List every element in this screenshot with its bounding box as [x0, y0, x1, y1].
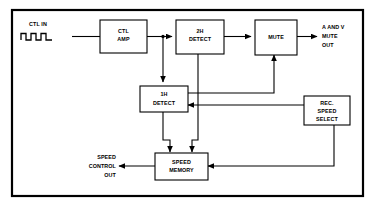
block-2h-detect-line-2: DETECT [189, 36, 212, 42]
block-rec-speed-select[interactable]: REC. SPEED SELECT [304, 96, 350, 125]
block-speed-memory[interactable]: SPEED MEMORY [155, 153, 208, 180]
block-2h-detect[interactable]: 2H DETECT [176, 20, 224, 54]
block-ctl-amp-line-2: AMP [117, 36, 130, 42]
block-1h-detect-line-1: 1H [160, 91, 167, 97]
block-speed-memory-line-2: MEMORY [169, 167, 194, 173]
block-rec-speed-line-3: SELECT [316, 116, 338, 122]
block-rec-speed-line-1: REC. [320, 100, 334, 106]
block-2h-detect-line-1: 2H [196, 28, 203, 34]
a-and-v-mute-out-label: A AND V MUTE OUT [322, 24, 345, 48]
block-1h-detect[interactable]: 1H DETECT [140, 86, 188, 112]
block-1h-detect-line-2: DETECT [153, 100, 176, 106]
block-mute[interactable]: MUTE [255, 20, 297, 55]
block-diagram-canvas: CTL IN [0, 0, 375, 206]
block-diagram-svg: CTL IN [0, 0, 375, 206]
block-ctl-amp[interactable]: CTL AMP [100, 20, 147, 53]
mute-out-line-3: OUT [322, 42, 334, 48]
speed-control-out-line-3: OUT [104, 172, 116, 178]
wire-2hdetect-to-speedmemory [192, 54, 198, 152]
block-ctl-amp-line-1: CTL [118, 28, 129, 34]
block-speed-memory-line-1: SPEED [172, 159, 191, 165]
mute-out-line-2: MUTE [322, 33, 338, 39]
wire-recspeed-to-speedmemory [208, 125, 334, 166]
speed-control-out-line-1: SPEED [97, 154, 116, 160]
wire-1hdetect-to-speedmemory [163, 112, 170, 152]
block-rec-speed-line-2: SPEED [318, 108, 337, 114]
mute-out-line-1: A AND V [322, 24, 345, 30]
ctl-in-label: CTL IN [29, 21, 47, 27]
block-mute-label: MUTE [268, 34, 284, 40]
speed-control-out-line-2: CONTROL [89, 163, 117, 169]
ctl-in-waveform [21, 34, 52, 41]
speed-control-out-label: SPEED CONTROL OUT [89, 154, 117, 178]
